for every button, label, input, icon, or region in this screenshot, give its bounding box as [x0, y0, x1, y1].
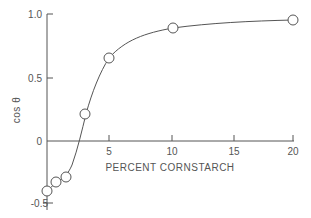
- x-axis-title: PERCENT CORNSTARCH: [105, 162, 234, 173]
- data-point: [168, 23, 178, 33]
- y-tick-label: 0.5: [28, 73, 42, 84]
- y-tick-label: 0: [36, 136, 42, 147]
- x-tick-label: 5: [106, 146, 112, 157]
- y-tick-label: -0.5: [31, 198, 49, 209]
- x-tick-label: 15: [228, 146, 240, 157]
- data-point: [61, 172, 71, 182]
- y-tick-label: 1.0: [28, 9, 42, 20]
- data-point: [104, 53, 114, 63]
- chart: 1.0 0.5 0 -0.5 5 10 15 20 PERCENT CORNST…: [0, 0, 311, 218]
- x-tick-label: 20: [287, 146, 299, 157]
- y-axis-title: cos θ: [11, 97, 22, 123]
- data-point: [288, 15, 298, 25]
- data-point: [51, 177, 61, 187]
- data-point: [80, 109, 90, 119]
- data-point: [42, 186, 52, 196]
- x-tick-label: 10: [166, 146, 178, 157]
